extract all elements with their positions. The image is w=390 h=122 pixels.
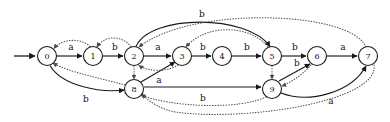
edge-label-5-6: b	[292, 42, 298, 52]
node-0-label: 0	[44, 52, 49, 61]
state-transition-diagram: a b a b b b a b b a b b a 0 1	[0, 0, 390, 122]
node-7-label: 7	[365, 52, 370, 61]
node-5-label: 5	[269, 52, 274, 61]
node-9-label: 9	[269, 85, 274, 94]
node-1[interactable]: 1	[84, 47, 103, 66]
node-0[interactable]: 0	[38, 47, 57, 66]
edge-label-4-5: b	[244, 42, 250, 52]
edge-5-3-dotted	[186, 30, 268, 47]
edge-label-6-7: a	[340, 42, 346, 52]
node-9[interactable]: 9	[263, 80, 282, 99]
node-6[interactable]: 6	[308, 47, 327, 66]
node-4-label: 4	[219, 52, 224, 61]
edge-label-0-1: a	[68, 42, 74, 52]
node-3-label: 3	[179, 52, 184, 61]
diagram-canvas: a b a b b b a b b a b b a 0 1	[0, 0, 390, 122]
edge-label-8-9: b	[200, 93, 206, 103]
node-8-label: 8	[131, 85, 136, 94]
edge-label-9-6: b	[294, 58, 300, 68]
node-2-label: 2	[131, 52, 136, 61]
node-5[interactable]: 5	[263, 47, 282, 66]
edge-9-7	[281, 66, 366, 97]
node-7[interactable]: 7	[359, 47, 378, 66]
node-3[interactable]: 3	[173, 47, 192, 66]
edge-8-0-dotted	[53, 63, 125, 85]
edge-3-2-dotted	[139, 65, 178, 70]
edge-label-2-5: b	[199, 9, 205, 19]
edge-label-0-8: b	[83, 94, 89, 104]
edge-label-8-3: a	[156, 75, 162, 85]
node-6-label: 6	[314, 52, 319, 61]
edge-label-3-4: b	[200, 42, 206, 52]
dotted-edges	[53, 18, 374, 115]
edge-0-8	[50, 66, 124, 91]
node-2[interactable]: 2	[125, 47, 144, 66]
edge-label-9-7: a	[328, 96, 334, 106]
node-1-label: 1	[90, 52, 95, 61]
edge-label-1-2: b	[112, 42, 118, 52]
node-8[interactable]: 8	[125, 80, 144, 99]
nodes: 0 1 2 3 4 5 6	[38, 47, 378, 99]
edge-label-2-3: a	[155, 42, 161, 52]
node-4[interactable]: 4	[213, 47, 232, 66]
edge-labels: a b a b b b a b b a b b a	[68, 9, 346, 106]
edge-6-9-dotted	[282, 65, 311, 86]
